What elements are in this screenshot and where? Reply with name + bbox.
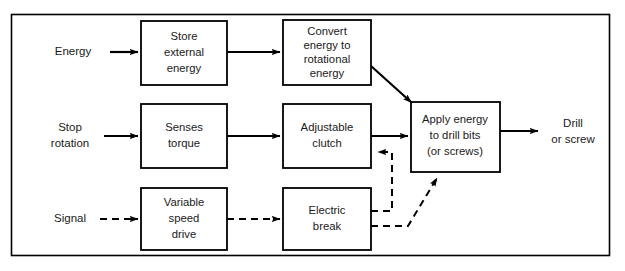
box-label-line: (or screws) — [427, 145, 483, 157]
box-label-line: Electric — [308, 204, 345, 216]
box-label-line: external — [164, 46, 204, 58]
box-label-line: Apply energy — [422, 113, 488, 125]
box-electric-break[interactable]: Electric break — [283, 188, 371, 250]
label-input-stop-rotation: Stop rotation — [51, 121, 89, 149]
box-label-line: Store — [170, 30, 197, 42]
connector-convert-to-apply — [371, 66, 412, 103]
label-input-signal: Signal — [54, 212, 86, 224]
box-layer: Store external energy Convert energy to … — [141, 20, 500, 250]
io-label-line: rotation — [51, 137, 89, 149]
box-label-line: Convert — [307, 25, 347, 37]
box-label-line: clutch — [312, 137, 342, 149]
io-label-line: Stop — [58, 121, 82, 133]
connector-electric-break-to-clutch-feedback — [371, 152, 392, 211]
label-output-drill-or-screw: Drill or screw — [551, 117, 595, 145]
box-convert-energy-to-rotational-energy[interactable]: Convert energy to rotational energy — [283, 20, 371, 85]
box-label-line: break — [313, 220, 342, 232]
box-label-line: torque — [168, 137, 200, 149]
box-adjustable-clutch[interactable]: Adjustable clutch — [283, 104, 371, 168]
box-label-line: speed — [169, 212, 200, 224]
box-store-external-energy[interactable]: Store external energy — [141, 21, 227, 85]
box-apply-energy-to-drill-bits[interactable]: Apply energy to drill bits (or screws) — [411, 102, 500, 172]
block-diagram-svg: Store external energy Convert energy to … — [0, 0, 625, 271]
box-label-line: energy to — [303, 39, 350, 51]
box-label-line: to drill bits — [430, 129, 481, 141]
io-label-line: or screw — [551, 133, 595, 145]
label-input-energy: Energy — [55, 45, 92, 57]
block-diagram-canvas: Store external energy Convert energy to … — [0, 0, 625, 271]
box-label-line: Variable — [164, 196, 205, 208]
box-senses-torque[interactable]: Senses torque — [141, 104, 227, 168]
io-label-line: Drill — [563, 117, 583, 129]
io-label-line: Energy — [55, 45, 92, 57]
box-label-line: energy — [310, 67, 345, 79]
box-label-line: Senses — [165, 121, 203, 133]
box-label-line: energy — [167, 62, 202, 74]
box-label-line: drive — [172, 228, 197, 240]
box-variable-speed-drive[interactable]: Variable speed drive — [141, 188, 227, 250]
box-label-line: rotational — [304, 53, 350, 65]
connector-electric-break-to-apply-feedback — [371, 178, 437, 226]
io-label-line: Signal — [54, 212, 86, 224]
box-label-line: Adjustable — [301, 121, 354, 133]
